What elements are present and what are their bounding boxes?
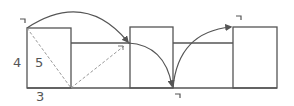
box-2 [130, 27, 173, 88]
width-label: 3 [36, 90, 44, 103]
arc-arrow-3 [173, 27, 231, 88]
diagonal-dashed-1 [27, 28, 71, 88]
height-label: 4 [13, 56, 21, 69]
corner-mark-icon [20, 19, 25, 23]
corner-mark-icon [236, 16, 241, 20]
box-3 [233, 27, 277, 88]
arc-arrow-2 [128, 43, 172, 86]
diagonal-label: 5 [35, 56, 43, 69]
corner-mark-icon [175, 94, 180, 98]
arc-arrow-1 [27, 12, 128, 42]
diagonal-dashed-2 [71, 46, 124, 88]
